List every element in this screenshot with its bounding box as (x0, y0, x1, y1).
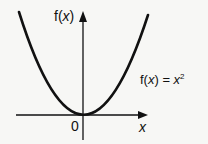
y-label-x: x (63, 8, 70, 24)
y-label-close: ) (70, 8, 75, 24)
y-axis-label: f(x) (54, 9, 74, 23)
y-axis-arrow-icon (79, 11, 87, 22)
y-label-f: f( (54, 8, 63, 24)
eq-sup: 2 (180, 72, 184, 81)
equation-label: f(x) = x2 (140, 73, 185, 86)
x-axis-label: x (139, 120, 146, 134)
eq-mid: ) = (154, 72, 173, 87)
x-axis-arrow-icon (138, 111, 148, 119)
eq-f: f( (140, 72, 148, 87)
origin-label: 0 (71, 119, 79, 133)
